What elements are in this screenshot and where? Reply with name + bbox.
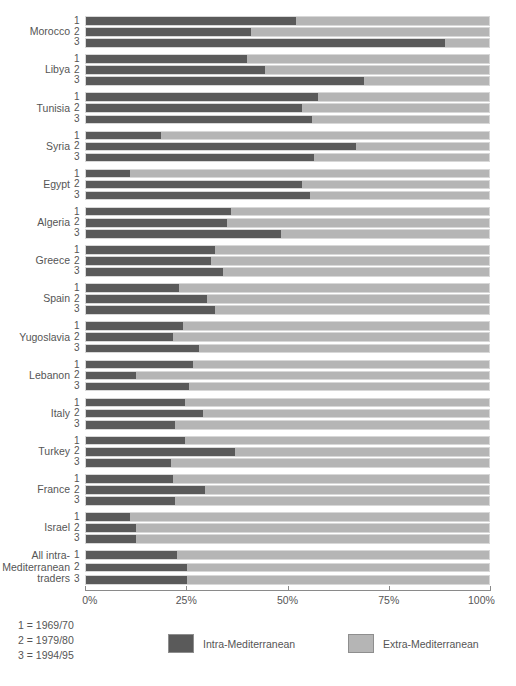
category-label: Turkey bbox=[0, 436, 74, 468]
category-label-line: Greece bbox=[0, 255, 70, 266]
axis-tick bbox=[288, 586, 289, 591]
category-label: Lebanon bbox=[0, 360, 74, 392]
bar-segment-extra-mediterranean bbox=[185, 399, 489, 407]
table-row bbox=[85, 523, 490, 533]
bar-segment-intra-mediterranean bbox=[86, 513, 130, 521]
bar-segment-extra-mediterranean bbox=[235, 448, 489, 456]
category-label-line: Yugoslavia bbox=[0, 332, 70, 343]
category-label: Egypt bbox=[0, 169, 74, 201]
bar-segment-intra-mediterranean bbox=[86, 132, 161, 140]
country-group: Libya123 bbox=[0, 54, 516, 86]
bar-segment-intra-mediterranean bbox=[86, 192, 310, 200]
category-label: France bbox=[0, 474, 74, 506]
bars-column bbox=[85, 207, 516, 239]
table-row bbox=[85, 92, 490, 102]
category-label: Italy bbox=[0, 398, 74, 430]
table-row bbox=[85, 496, 490, 506]
bar-segment-intra-mediterranean bbox=[86, 383, 189, 391]
period-index: 3 bbox=[74, 75, 83, 86]
bar-segment-extra-mediterranean bbox=[251, 28, 489, 36]
bars-column bbox=[85, 360, 516, 392]
bar-segment-intra-mediterranean bbox=[86, 93, 318, 101]
bar-segment-extra-mediterranean bbox=[247, 55, 489, 63]
table-row bbox=[85, 54, 490, 64]
country-group: France123 bbox=[0, 474, 516, 506]
table-row bbox=[85, 332, 490, 342]
category-label-line: Libya bbox=[0, 64, 70, 75]
category-label-line: Italy bbox=[0, 408, 70, 419]
table-row bbox=[85, 191, 490, 201]
period-index-column: 123 bbox=[74, 436, 85, 468]
period-index: 3 bbox=[74, 343, 83, 354]
category-label-line: traders bbox=[0, 573, 70, 584]
legend-swatch-extra-icon bbox=[348, 634, 374, 653]
period-index-column: 123 bbox=[74, 131, 85, 163]
bar-segment-intra-mediterranean bbox=[86, 257, 211, 265]
table-row bbox=[85, 563, 490, 573]
bar-segment-extra-mediterranean bbox=[130, 513, 489, 521]
period-index: 3 bbox=[74, 381, 83, 392]
bar-segment-intra-mediterranean bbox=[86, 524, 136, 532]
country-group: Italy123 bbox=[0, 398, 516, 430]
table-row bbox=[85, 131, 490, 141]
country-group: Algeria123 bbox=[0, 207, 516, 239]
table-row bbox=[85, 409, 490, 419]
country-group: Egypt123 bbox=[0, 169, 516, 201]
table-row bbox=[85, 294, 490, 304]
bar-segment-intra-mediterranean bbox=[86, 345, 199, 353]
bar-segment-intra-mediterranean bbox=[86, 564, 187, 572]
bar-segment-intra-mediterranean bbox=[86, 268, 223, 276]
table-row bbox=[85, 256, 490, 266]
bar-segment-intra-mediterranean bbox=[86, 576, 187, 584]
bar-segment-intra-mediterranean bbox=[86, 295, 207, 303]
bar-segment-extra-mediterranean bbox=[310, 192, 489, 200]
period-index: 3 bbox=[74, 574, 83, 585]
bar-segment-intra-mediterranean bbox=[86, 219, 227, 227]
bar-segment-intra-mediterranean bbox=[86, 154, 314, 162]
table-row bbox=[85, 534, 490, 544]
bar-segment-extra-mediterranean bbox=[296, 17, 489, 25]
period-index: 3 bbox=[74, 266, 83, 277]
period-index: 3 bbox=[74, 37, 83, 48]
bar-segment-intra-mediterranean bbox=[86, 181, 302, 189]
bars-column bbox=[85, 436, 516, 468]
period-index: 3 bbox=[74, 114, 83, 125]
bar-segment-extra-mediterranean bbox=[281, 230, 489, 238]
bar-segment-intra-mediterranean bbox=[86, 551, 177, 559]
table-row bbox=[85, 321, 490, 331]
category-label: Morocco bbox=[0, 16, 74, 48]
category-label: Yugoslavia bbox=[0, 321, 74, 353]
bar-segment-extra-mediterranean bbox=[364, 77, 489, 85]
bar-segment-intra-mediterranean bbox=[86, 55, 247, 63]
bar-segment-intra-mediterranean bbox=[86, 421, 175, 429]
axis-tick-label: 100% bbox=[468, 594, 495, 606]
table-row bbox=[85, 142, 490, 152]
bar-segment-extra-mediterranean bbox=[203, 410, 489, 418]
legend-item-intra-mediterranean: Intra-Mediterranean bbox=[168, 634, 295, 653]
bar-segment-extra-mediterranean bbox=[189, 383, 489, 391]
bar-segment-intra-mediterranean bbox=[86, 104, 302, 112]
table-row bbox=[85, 512, 490, 522]
table-row bbox=[85, 458, 490, 468]
bar-segment-extra-mediterranean bbox=[173, 333, 489, 341]
bar-segment-extra-mediterranean bbox=[171, 459, 489, 467]
period-index-column: 123 bbox=[74, 207, 85, 239]
period-index: 3 bbox=[74, 419, 83, 430]
table-row bbox=[85, 575, 490, 585]
bars-column bbox=[85, 54, 516, 86]
axis-tick-label: 0% bbox=[82, 594, 97, 606]
bar-segment-extra-mediterranean bbox=[356, 143, 489, 151]
country-group: Greece123 bbox=[0, 245, 516, 277]
category-label: Libya bbox=[0, 54, 74, 86]
stacked-bar-chart: Morocco123Libya123Tunisia123Syria123Egyp… bbox=[0, 0, 516, 686]
bar-segment-intra-mediterranean bbox=[86, 246, 215, 254]
table-row bbox=[85, 103, 490, 113]
category-label-line: Lebanon bbox=[0, 370, 70, 381]
bar-segment-extra-mediterranean bbox=[161, 132, 489, 140]
bar-segment-extra-mediterranean bbox=[179, 284, 489, 292]
bar-segment-intra-mediterranean bbox=[86, 170, 130, 178]
bars-column bbox=[85, 16, 516, 48]
bar-segment-extra-mediterranean bbox=[185, 437, 489, 445]
table-row bbox=[85, 305, 490, 315]
bars-column bbox=[85, 398, 516, 430]
